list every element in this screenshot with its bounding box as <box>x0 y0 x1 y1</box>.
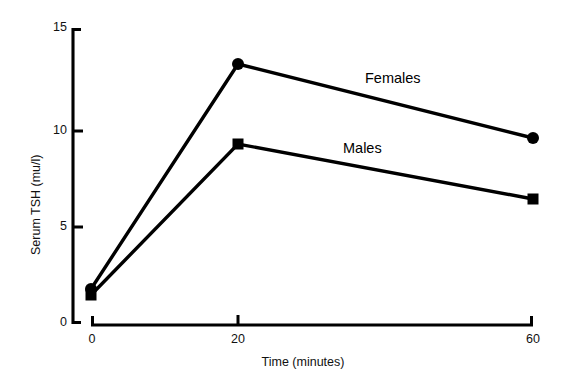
x-tick-label-20: 20 <box>225 333 251 346</box>
data-point-males-20 <box>233 139 244 150</box>
data-point-females-60 <box>527 132 539 144</box>
y-tick-label-0: 0 <box>41 316 67 329</box>
series-females <box>85 58 539 295</box>
data-point-females-20 <box>232 58 244 70</box>
y-axis-title: Serum TSH (mu/l) <box>30 155 43 255</box>
x-tick-label-60: 60 <box>520 333 546 346</box>
x-tick-label-0: 0 <box>79 333 105 346</box>
chart-figure: 15 10 5 0 0 20 60 Time (minutes) Serum T… <box>0 0 576 384</box>
y-axis <box>73 28 83 324</box>
series-label-females: Females <box>365 71 421 86</box>
x-axis <box>91 315 533 325</box>
data-point-males-60 <box>528 194 539 205</box>
series-label-males: Males <box>343 141 382 156</box>
y-tick-label-15: 15 <box>41 21 67 34</box>
data-point-males-0 <box>86 290 97 301</box>
x-axis-title: Time (minutes) <box>213 356 393 369</box>
chart-plot-area <box>0 0 576 384</box>
y-tick-label-10: 10 <box>41 124 67 137</box>
y-tick-label-5: 5 <box>41 220 67 233</box>
series-males <box>86 139 539 301</box>
